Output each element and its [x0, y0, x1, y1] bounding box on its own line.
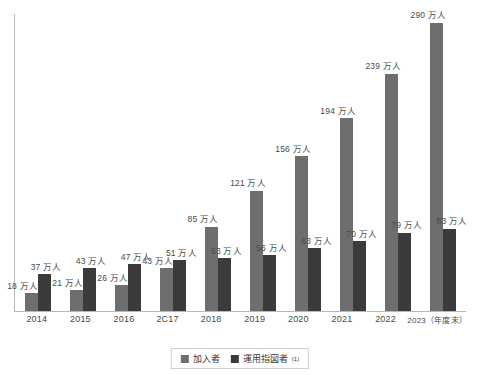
bar-加入者: 156 万人: [295, 156, 308, 311]
bar-group: 85 万人53 万人: [195, 14, 240, 311]
bar-加入者: 21 万人: [70, 290, 83, 311]
bar-group: 26 万人47 万人: [105, 14, 150, 311]
x-tick-label: 2015: [59, 314, 103, 325]
bar-group: 43 万人51 万人: [150, 14, 195, 311]
bar-運用指図者: 51 万人: [173, 260, 186, 311]
x-tick-label: 2016: [102, 314, 146, 325]
bar-value-label: 26 万人: [97, 274, 128, 283]
bar-group: 239 万人79 万人: [376, 14, 421, 311]
bar-group: 18 万人37 万人: [15, 14, 60, 311]
bar-pair: 121 万人56 万人: [250, 191, 276, 311]
bar-加入者: 26 万人: [115, 285, 128, 311]
bar-groups: 18 万人37 万人21 万人43 万人26 万人47 万人43 万人51 万人…: [15, 14, 466, 311]
bar-value-label: 21 万人: [52, 279, 83, 288]
bar-group: 156 万人63 万人: [286, 14, 331, 311]
bar-加入者: 290 万人: [430, 23, 443, 311]
bar-pair: 26 万人47 万人: [115, 264, 141, 311]
bar-group: 194 万人70 万人: [331, 14, 376, 311]
bar-value-label: 121 万人: [230, 179, 266, 188]
bar-pair: 43 万人51 万人: [160, 260, 186, 311]
legend-swatch-icon-kanyusha: [181, 355, 189, 363]
bar-value-label: 85 万人: [188, 215, 219, 224]
bar-加入者: 18 万人: [25, 293, 38, 311]
bar-運用指図者: 37 万人: [38, 274, 51, 311]
plot-area: 18 万人37 万人21 万人43 万人26 万人47 万人43 万人51 万人…: [14, 14, 466, 312]
bar-value-label: 79 万人: [391, 221, 422, 230]
bar-value-label: 56 万人: [256, 244, 287, 253]
bar-加入者: 194 万人: [340, 118, 353, 311]
bar-pair: 290 万人83 万人: [430, 23, 456, 311]
bar-運用指図者: 83 万人: [443, 229, 456, 311]
x-tick-label: 2021: [320, 314, 364, 325]
bar-group: 121 万人56 万人: [240, 14, 285, 311]
bar-value-label: 37 万人: [31, 263, 62, 272]
x-tick-label: 2C17: [146, 314, 190, 325]
bar-value-label: 43 万人: [76, 257, 107, 266]
bar-value-label: 63 万人: [301, 237, 332, 246]
bar-加入者: 85 万人: [205, 227, 218, 311]
legend-item-kanyusha: 加入者: [181, 352, 220, 365]
bar-運用指図者: 43 万人: [83, 268, 96, 311]
bar-value-label: 70 万人: [346, 230, 377, 239]
x-tick-label: 2020: [277, 314, 321, 325]
legend-swatch-icon-unyoshizusha: [231, 355, 239, 363]
bar-運用指図者: 63 万人: [308, 248, 321, 311]
bar-pair: 239 万人79 万人: [385, 74, 411, 311]
bar-加入者: 239 万人: [385, 74, 398, 311]
bar-加入者: 43 万人: [160, 268, 173, 311]
bar-value-label: 83 万人: [436, 217, 467, 226]
bar-運用指図者: 47 万人: [128, 264, 141, 311]
x-tick-label: 2023（年度末）: [407, 314, 467, 325]
bar-value-label: 194 万人: [320, 107, 356, 116]
x-tick-label: 2019: [233, 314, 277, 325]
bar-chart: 18 万人37 万人21 万人43 万人26 万人47 万人43 万人51 万人…: [0, 0, 480, 375]
x-tick-label: 2022: [364, 314, 408, 325]
bar-value-label: 290 万人: [411, 11, 447, 20]
bar-運用指図者: 53 万人: [218, 258, 231, 311]
bar-value-label: 239 万人: [365, 62, 401, 71]
chart-legend: 加入者 運用指図者(1): [171, 348, 309, 369]
bar-group: 290 万人83 万人: [421, 14, 466, 311]
legend-footnote-marker: (1): [292, 356, 299, 362]
bar-value-label: 18 万人: [7, 282, 38, 291]
bar-group: 21 万人43 万人: [60, 14, 105, 311]
bar-運用指図者: 56 万人: [263, 255, 276, 311]
x-axis-line: [14, 311, 466, 312]
bar-pair: 85 万人53 万人: [205, 227, 231, 311]
x-tick-label: 2014: [15, 314, 59, 325]
bar-value-label: 43 万人: [142, 257, 173, 266]
bar-pair: 194 万人70 万人: [340, 118, 366, 311]
legend-item-unyoshizusha: 運用指図者(1): [231, 352, 299, 365]
bar-運用指図者: 70 万人: [353, 241, 366, 311]
bar-value-label: 53 万人: [211, 247, 242, 256]
bar-value-label: 156 万人: [275, 145, 311, 154]
legend-label-kanyusha: 加入者: [193, 352, 220, 365]
bar-pair: 21 万人43 万人: [70, 268, 96, 311]
x-axis-tick-labels: 2014201520162C17201820192020202120222023…: [15, 314, 467, 325]
legend-label-unyoshizusha: 運用指図者: [243, 352, 288, 365]
bar-value-label: 51 万人: [166, 249, 197, 258]
bar-pair: 156 万人63 万人: [295, 156, 321, 311]
bar-pair: 18 万人37 万人: [25, 274, 51, 311]
bar-運用指図者: 79 万人: [398, 233, 411, 311]
x-tick-label: 2018: [189, 314, 233, 325]
